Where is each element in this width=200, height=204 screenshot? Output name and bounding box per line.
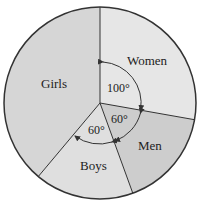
label-boys: Boys bbox=[80, 158, 107, 173]
label-men: Men bbox=[138, 138, 162, 153]
label-girls: Girls bbox=[41, 76, 67, 91]
angle-label-men: 60° bbox=[111, 112, 128, 126]
pie-chart: Women Men Boys Girls 100° 60° 60° bbox=[0, 0, 200, 204]
angle-label-boys: 60° bbox=[88, 123, 105, 137]
angle-label-women: 100° bbox=[107, 81, 130, 95]
label-women: Women bbox=[127, 53, 168, 68]
